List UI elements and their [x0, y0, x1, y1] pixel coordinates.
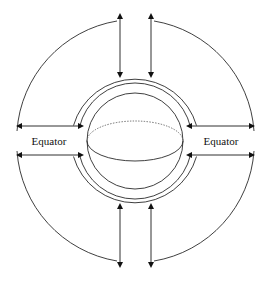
middle-ring-group — [74, 79, 197, 203]
diagram-figure: Equator Equator — [0, 0, 271, 281]
equator-label-left: Equator — [32, 135, 67, 147]
outer-arc-lower-left — [17, 151, 117, 261]
equator-back-arc — [87, 121, 183, 141]
inner-arc-lower — [80, 155, 191, 199]
inner-ring-group — [80, 83, 191, 199]
diagram-canvas: Equator Equator — [0, 0, 271, 281]
inner-arc-upper — [80, 83, 191, 127]
sphere-group — [87, 93, 183, 189]
sphere-outline — [87, 93, 183, 189]
outer-arc-lower-right — [154, 151, 254, 261]
equator-label-right: Equator — [204, 135, 239, 147]
polar-arrow-group — [120, 18, 151, 263]
outer-arc-upper-right — [154, 21, 254, 131]
outer-arc-upper-left — [17, 21, 117, 131]
equator-front-arc — [87, 141, 183, 161]
